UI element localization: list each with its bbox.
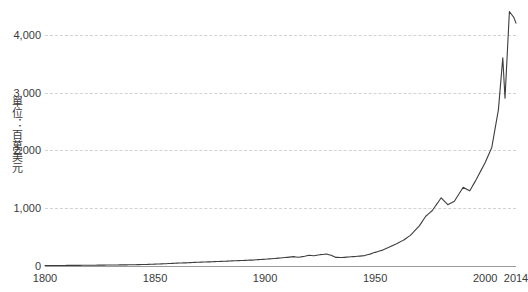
x-tick-label: 1800 <box>33 272 57 284</box>
x-tick-label: 1950 <box>363 272 387 284</box>
x-tick-label: 2000 <box>473 272 497 284</box>
x-tick-label: 2014 <box>504 272 528 284</box>
y-axis-tick-labels: 01,0002,0003,0004,000 <box>0 0 41 266</box>
x-axis-tick-labels: 180018501900195020002014 <box>45 0 516 292</box>
y-tick-label: 0 <box>0 260 41 272</box>
x-tick-label: 1850 <box>143 272 167 284</box>
y-tick-label: 3,000 <box>0 87 41 99</box>
y-tick-label: 1,000 <box>0 202 41 214</box>
x-tick-label: 1900 <box>253 272 277 284</box>
y-tick-label: 4,000 <box>0 29 41 41</box>
y-tick-label: 2,000 <box>0 144 41 156</box>
